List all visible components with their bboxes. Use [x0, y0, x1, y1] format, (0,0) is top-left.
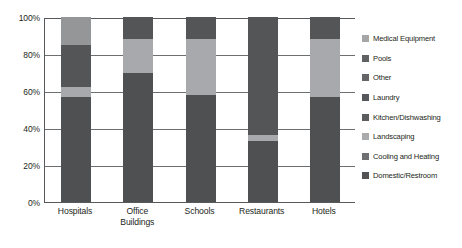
legend-swatch-icon: [362, 153, 369, 160]
bar-segment: [123, 73, 153, 203]
legend-item-label: Cooling and Heating: [373, 152, 439, 161]
legend-swatch-icon: [362, 94, 369, 101]
x-axis-tick-label: Hotels: [293, 206, 355, 217]
x-axis-tick-label: Schools: [168, 206, 230, 217]
y-axis-tick-label: 40%: [23, 124, 40, 134]
bar-segment: [186, 39, 216, 95]
legend-item-label: Landscaping: [373, 132, 414, 141]
legend-swatch-icon: [362, 114, 369, 121]
legend-item: Laundry: [362, 88, 462, 108]
legend-item: Domestic/Restroom: [362, 166, 462, 186]
bar-segment: [61, 45, 91, 88]
bar-schools: [186, 18, 216, 202]
legend-swatch-icon: [362, 172, 369, 179]
legend-item-label: Other: [373, 73, 391, 82]
x-axis-tick-label: Office Buildings: [106, 206, 168, 227]
y-axis: 100%80%60%40%20%0%: [0, 0, 40, 248]
legend-item-label: Pools: [373, 54, 391, 63]
bar-segment: [61, 17, 91, 45]
bar-segment: [248, 17, 278, 135]
stacked-bar-chart: 100%80%60%40%20%0% HospitalsOffice Build…: [0, 0, 462, 248]
bar-segment: [61, 87, 91, 96]
legend-swatch-icon: [362, 35, 369, 42]
bar-segment: [248, 135, 278, 141]
legend-item: Medical Equipment: [362, 29, 462, 49]
legend-item: Other: [362, 68, 462, 88]
legend-item: Pools: [362, 49, 462, 69]
chart-legend: Medical EquipmentPoolsOtherLaundryKitche…: [362, 29, 462, 186]
legend-swatch-icon: [362, 133, 369, 140]
y-axis-tick-label: 0%: [28, 198, 40, 208]
bar-segment: [123, 39, 153, 72]
legend-item-label: Medical Equipment: [373, 34, 435, 43]
x-axis-tick-label: Restaurants: [231, 206, 293, 217]
bar-hotels: [310, 18, 340, 202]
legend-item: Landscaping: [362, 127, 462, 147]
x-axis-tick-label: Hospitals: [44, 206, 106, 217]
legend-item-label: Laundry: [373, 93, 399, 102]
legend-item-label: Domestic/Restroom: [373, 171, 437, 180]
bar-segment: [61, 97, 91, 202]
legend-swatch-icon: [362, 74, 369, 81]
bar-segment: [186, 95, 216, 202]
bar-hospitals: [61, 18, 91, 202]
legend-item-label: Kitchen/Dishwashing: [373, 113, 441, 122]
y-axis-tick-label: 20%: [23, 161, 40, 171]
bar-segment: [186, 17, 216, 39]
legend-swatch-icon: [362, 55, 369, 62]
bar-segment: [310, 97, 340, 202]
bar-restaurants: [248, 18, 278, 202]
bar-office-buildings: [123, 18, 153, 202]
y-axis-tick-label: 100%: [19, 13, 40, 23]
bar-segment: [248, 141, 278, 202]
y-axis-tick-label: 80%: [23, 50, 40, 60]
plot-area: [44, 18, 355, 203]
bar-segment: [310, 39, 340, 96]
y-axis-tick-label: 60%: [23, 87, 40, 97]
bar-segment: [123, 17, 153, 39]
legend-item: Kitchen/Dishwashing: [362, 107, 462, 127]
legend-item: Cooling and Heating: [362, 147, 462, 167]
bar-segment: [310, 17, 340, 39]
